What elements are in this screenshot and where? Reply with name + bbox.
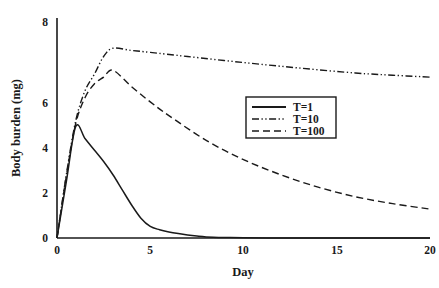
chart-figure: 0 2 4 6 8 0 5 10 15 20 Day Body burden (… xyxy=(0,0,439,288)
legend-label-t100: T=100 xyxy=(293,125,325,137)
y-tick-label-4: 4 xyxy=(42,142,48,154)
x-tick-label-5: 5 xyxy=(147,244,153,256)
series-line-t1 xyxy=(57,125,430,238)
y-tick-label-2: 2 xyxy=(42,187,48,199)
legend-label-t1: T=1 xyxy=(293,101,313,113)
series-line-t100 xyxy=(57,70,430,238)
y-tick-label-6: 6 xyxy=(42,97,48,109)
legend: T=1 T=10 T=100 xyxy=(246,97,336,138)
x-tick-label-20: 20 xyxy=(424,244,436,256)
x-tick-label-0: 0 xyxy=(54,244,60,256)
x-axis-title: Day xyxy=(232,265,254,279)
x-tick-label-10: 10 xyxy=(237,244,249,256)
y-tick-label-8: 8 xyxy=(42,16,48,28)
series-line-t10 xyxy=(57,48,430,238)
line-chart: 0 2 4 6 8 0 5 10 15 20 Day Body burden (… xyxy=(0,0,439,288)
y-tick-label-0: 0 xyxy=(42,232,48,244)
x-tick-label-15: 15 xyxy=(331,244,343,256)
y-axis-title: Body burden (mg) xyxy=(9,79,23,177)
legend-label-t10: T=10 xyxy=(293,113,319,125)
